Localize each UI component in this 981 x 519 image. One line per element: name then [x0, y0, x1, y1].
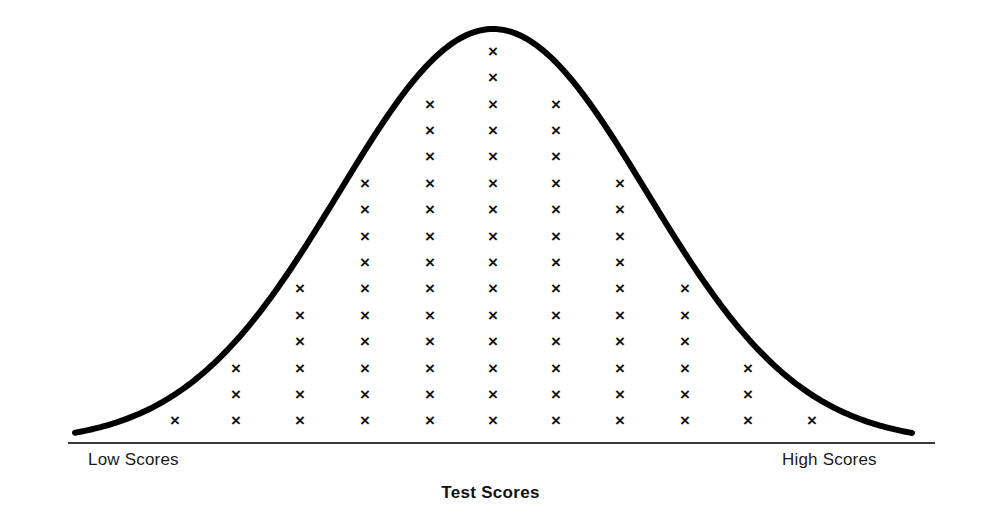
x-mark: × — [807, 411, 817, 430]
mark-column: ××××××××××××××× — [488, 42, 498, 431]
x-mark: × — [680, 332, 690, 351]
x-mark: × — [360, 359, 370, 378]
x-mark: × — [360, 227, 370, 246]
x-mark: × — [488, 279, 498, 298]
mark-column: × — [170, 411, 180, 430]
x-mark: × — [551, 147, 561, 166]
x-mark: × — [488, 68, 498, 87]
x-mark: × — [425, 253, 435, 272]
x-mark: × — [488, 121, 498, 140]
x-mark: × — [360, 200, 370, 219]
x-mark: × — [425, 121, 435, 140]
x-mark: × — [615, 385, 625, 404]
x-mark: × — [488, 359, 498, 378]
x-mark: × — [488, 385, 498, 404]
x-mark: × — [425, 279, 435, 298]
axis-label-low-scores: Low Scores — [88, 450, 179, 470]
x-mark: × — [425, 332, 435, 351]
x-mark: × — [295, 279, 305, 298]
x-mark: × — [551, 306, 561, 325]
x-marks-layer: ××××××××××××××××××××××××××××××××××××××××… — [170, 42, 817, 431]
mark-column: ××××××××××××× — [425, 95, 435, 431]
x-mark: × — [295, 411, 305, 430]
x-mark: × — [680, 306, 690, 325]
x-mark: × — [425, 227, 435, 246]
x-mark: × — [425, 306, 435, 325]
x-mark: × — [360, 253, 370, 272]
x-mark: × — [295, 359, 305, 378]
x-mark: × — [680, 359, 690, 378]
x-mark: × — [551, 95, 561, 114]
x-mark: × — [743, 411, 753, 430]
x-mark: × — [488, 174, 498, 193]
x-mark: × — [295, 332, 305, 351]
x-mark: × — [615, 332, 625, 351]
x-mark: × — [360, 332, 370, 351]
x-mark: × — [551, 411, 561, 430]
x-mark: × — [295, 306, 305, 325]
x-mark: × — [615, 253, 625, 272]
x-mark: × — [680, 411, 690, 430]
x-mark: × — [231, 385, 241, 404]
x-mark: × — [360, 385, 370, 404]
axis-label-high-scores: High Scores — [782, 450, 877, 470]
x-mark: × — [551, 359, 561, 378]
x-mark: × — [680, 279, 690, 298]
x-mark: × — [231, 359, 241, 378]
x-mark: × — [488, 227, 498, 246]
x-mark: × — [551, 121, 561, 140]
x-mark: × — [551, 279, 561, 298]
mark-column: ×××××××××× — [360, 174, 370, 431]
x-mark: × — [488, 95, 498, 114]
x-mark: × — [488, 200, 498, 219]
mark-column: ×××××× — [295, 279, 305, 430]
x-mark: × — [551, 200, 561, 219]
x-mark: × — [551, 227, 561, 246]
x-mark: × — [488, 411, 498, 430]
x-mark: × — [425, 411, 435, 430]
x-mark: × — [488, 42, 498, 61]
mark-column: ×××××××××× — [615, 174, 625, 431]
x-mark: × — [615, 411, 625, 430]
x-mark: × — [488, 147, 498, 166]
x-mark: × — [615, 306, 625, 325]
x-mark: × — [615, 174, 625, 193]
x-mark: × — [615, 279, 625, 298]
distribution-plot: ××××××××××××××××××××××××××××××××××××××××… — [0, 0, 981, 519]
x-mark: × — [615, 359, 625, 378]
x-mark: × — [743, 359, 753, 378]
x-mark: × — [170, 411, 180, 430]
x-mark: × — [425, 200, 435, 219]
x-mark: × — [488, 306, 498, 325]
mark-column: ××××××××××××× — [551, 95, 561, 431]
x-mark: × — [551, 253, 561, 272]
mark-column: × — [807, 411, 817, 430]
x-mark: × — [360, 306, 370, 325]
x-mark: × — [615, 200, 625, 219]
x-mark: × — [425, 147, 435, 166]
x-mark: × — [551, 332, 561, 351]
x-mark: × — [425, 95, 435, 114]
x-mark: × — [425, 359, 435, 378]
mark-column: ××× — [743, 359, 753, 431]
x-mark: × — [551, 385, 561, 404]
x-mark: × — [231, 411, 241, 430]
x-mark: × — [488, 253, 498, 272]
x-mark: × — [425, 385, 435, 404]
chart-title: Test Scores — [0, 483, 981, 503]
mark-column: ×××××× — [680, 279, 690, 430]
x-mark: × — [615, 227, 625, 246]
x-mark: × — [360, 174, 370, 193]
bell-curve-figure: ××××××××××××××××××××××××××××××××××××××××… — [0, 0, 981, 519]
x-mark: × — [295, 385, 305, 404]
x-mark: × — [360, 411, 370, 430]
mark-column: ××× — [231, 359, 241, 431]
x-mark: × — [488, 332, 498, 351]
x-mark: × — [425, 174, 435, 193]
x-mark: × — [680, 385, 690, 404]
x-mark: × — [360, 279, 370, 298]
x-mark: × — [551, 174, 561, 193]
x-mark: × — [743, 385, 753, 404]
